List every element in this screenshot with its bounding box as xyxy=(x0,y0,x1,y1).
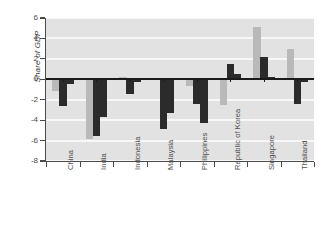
x-axis-category-label: Thailand xyxy=(300,140,309,170)
x-axis-tick xyxy=(281,162,282,167)
y-axis-tick-label: -4 xyxy=(20,115,38,124)
y-axis-tick-label: 6 xyxy=(20,13,38,22)
zero-line xyxy=(46,78,314,80)
bar xyxy=(220,79,227,105)
x-axis-tick xyxy=(214,162,215,167)
x-axis-category-label: Republic of Korea xyxy=(233,109,242,170)
y-axis-tick xyxy=(40,120,45,121)
bar xyxy=(260,57,267,79)
y-axis-tick-label: -8 xyxy=(20,156,38,165)
x-axis-tick xyxy=(46,162,47,167)
x-axis-category-label: Philippines xyxy=(200,133,209,170)
y-axis-tick-label: -2 xyxy=(20,95,38,104)
zero-line-tick xyxy=(96,79,97,82)
x-axis-tick xyxy=(147,162,148,167)
y-axis-tick xyxy=(40,17,45,18)
zero-line-tick xyxy=(230,79,231,82)
x-axis-category-label: Malaysia xyxy=(166,140,175,170)
bar-chart: Share of GDP 6420-2-4-6-8 ChinaIndiaIndo… xyxy=(0,0,326,246)
y-axis-tick-label: 0 xyxy=(20,74,38,83)
gridline xyxy=(46,18,314,19)
zero-line-tick xyxy=(130,79,131,82)
x-axis-category-label: China xyxy=(66,150,75,170)
y-axis-tick xyxy=(40,140,45,141)
zero-line-tick xyxy=(264,79,265,82)
x-axis-category-label: Singapore xyxy=(267,135,276,170)
y-axis-tick xyxy=(40,160,45,161)
x-axis-tick xyxy=(113,162,114,167)
zero-line-tick xyxy=(163,79,164,82)
y-axis-tick-label: 4 xyxy=(20,33,38,42)
y-axis-tick xyxy=(40,38,45,39)
y-axis-line xyxy=(45,18,46,162)
bar xyxy=(200,79,207,123)
y-axis-tick xyxy=(40,99,45,100)
x-axis-tick xyxy=(80,162,81,167)
bar xyxy=(167,79,174,113)
x-axis-tick xyxy=(247,162,248,167)
bar xyxy=(294,79,301,104)
zero-line-tick xyxy=(63,79,64,82)
gridline xyxy=(46,58,314,60)
x-axis-tick xyxy=(314,162,315,167)
x-axis-category-label: Indonesia xyxy=(133,137,142,170)
y-axis-tick-label: -6 xyxy=(20,136,38,145)
y-axis-tick xyxy=(40,58,45,59)
x-axis-category-label: India xyxy=(99,153,108,170)
bar xyxy=(100,79,107,117)
y-axis-tick xyxy=(40,79,45,80)
x-axis-tick xyxy=(180,162,181,167)
y-axis-tick-label: 2 xyxy=(20,54,38,63)
bar xyxy=(287,49,294,80)
zero-line-tick xyxy=(297,79,298,82)
zero-line-tick xyxy=(197,79,198,82)
gridline xyxy=(46,37,314,39)
